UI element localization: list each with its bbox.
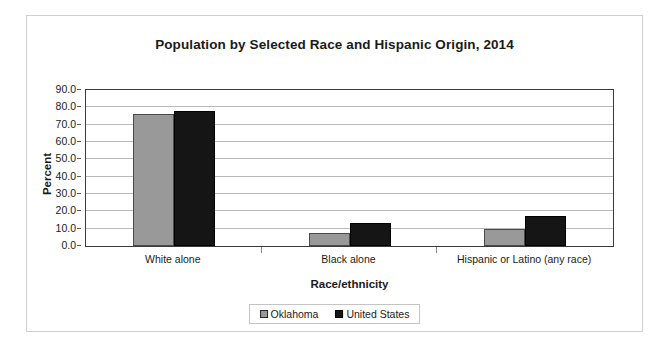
y-axis-tick-label: 40.0 xyxy=(56,170,76,182)
bar-oklahoma-1 xyxy=(309,233,350,246)
bar-united-states-0 xyxy=(174,111,215,246)
chart-frame: Population by Selected Race and Hispanic… xyxy=(26,15,643,332)
y-axis-tick-mark xyxy=(77,210,81,211)
gridline xyxy=(86,106,613,107)
y-axis-tick-label: 50.0 xyxy=(56,152,76,164)
plot-area xyxy=(85,89,614,247)
x-axis-tick-label: Black alone xyxy=(321,253,375,265)
y-axis-tick-label: 10.0 xyxy=(56,222,76,234)
chart-legend: OklahomaUnited States xyxy=(249,304,421,324)
legend-item-oklahoma: Oklahoma xyxy=(260,308,319,320)
bar-oklahoma-0 xyxy=(133,114,174,246)
legend-item-united-states: United States xyxy=(335,308,409,320)
x-axis-tick-label: Hispanic or Latino (any race) xyxy=(457,253,591,265)
x-axis-tick-label: White alone xyxy=(145,253,200,265)
y-axis-tick-label: 90.0 xyxy=(56,83,76,95)
y-axis-tick-mark xyxy=(77,124,81,125)
y-axis-tick-label: 20.0 xyxy=(56,204,76,216)
y-axis-tick-label: 0.0 xyxy=(61,239,76,251)
y-axis-tick-mark xyxy=(77,106,81,107)
y-axis-tick-label: 30.0 xyxy=(56,187,76,199)
y-axis-tick-mark xyxy=(77,176,81,177)
x-axis-tick-labels: White aloneBlack aloneHispanic or Latino… xyxy=(85,253,614,271)
y-axis-tick-mark xyxy=(77,89,81,90)
gray-square-swatch xyxy=(260,310,268,318)
y-axis-tick-labels: 90.080.070.060.050.040.030.020.010.00.0 xyxy=(27,89,81,247)
scan-artifact-strip xyxy=(0,0,669,8)
y-axis-tick-mark xyxy=(77,141,81,142)
legend-item-label: United States xyxy=(346,308,409,320)
bar-united-states-1 xyxy=(350,223,391,246)
legend-item-label: Oklahoma xyxy=(271,308,319,320)
y-axis-tick-label: 70.0 xyxy=(56,118,76,130)
x-axis-title: Race/ethnicity xyxy=(85,278,614,290)
black-square-swatch xyxy=(335,310,343,318)
chart-title: Population by Selected Race and Hispanic… xyxy=(27,37,642,52)
y-axis-tick-label: 60.0 xyxy=(56,135,76,147)
bar-united-states-2 xyxy=(525,216,566,246)
y-axis-tick-mark xyxy=(77,158,81,159)
y-axis-tick-mark xyxy=(77,228,81,229)
bar-oklahoma-2 xyxy=(484,229,525,246)
y-axis-tick-label: 80.0 xyxy=(56,100,76,112)
y-axis-tick-mark xyxy=(77,245,81,246)
y-axis-tick-mark xyxy=(77,193,81,194)
